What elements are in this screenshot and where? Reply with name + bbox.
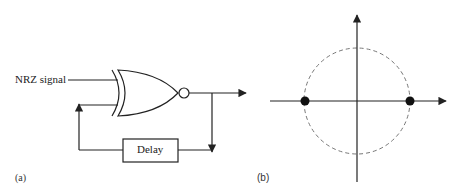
nrz-signal-label: NRZ signal [15, 73, 66, 85]
delay-label: Delay [137, 143, 163, 155]
panel-b-constellation [270, 15, 446, 182]
diagram-canvas [0, 0, 458, 195]
xnor-extra-curve-icon [112, 70, 119, 116]
panel-b-label: (b) [257, 172, 269, 183]
constellation-point-pos [406, 97, 415, 106]
panel-a-label: (a) [15, 172, 26, 183]
constellation-point-neg [301, 97, 310, 106]
xnor-gate-body-icon [118, 70, 178, 116]
inversion-bubble-icon [179, 88, 189, 98]
